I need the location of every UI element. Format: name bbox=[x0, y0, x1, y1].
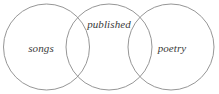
published-label: published bbox=[87, 18, 131, 30]
songs-label: songs bbox=[28, 42, 54, 54]
poetry-label: poetry bbox=[158, 42, 187, 54]
published-circle bbox=[66, 4, 152, 90]
venn-diagram: songs published poetry bbox=[0, 0, 219, 94]
